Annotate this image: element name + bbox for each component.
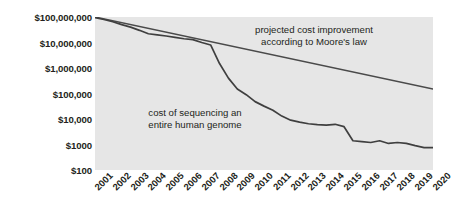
y-tick-label: $100,000,000: [0, 12, 92, 23]
x-tick-label: 2007: [199, 170, 222, 193]
x-tick-label: 2002: [110, 170, 133, 193]
y-tick-label: $1000: [0, 139, 92, 150]
x-axis: 2001200220032004200520062007200820092010…: [95, 170, 449, 203]
x-tick-label: 2020: [430, 170, 453, 193]
annotation-genome-cost: cost of sequencing an entire human genom…: [130, 107, 260, 132]
x-tick-label: 2019: [412, 170, 435, 193]
x-tick-label: 2005: [163, 170, 186, 193]
x-tick-label: 2006: [181, 170, 204, 193]
y-tick-label: $10,000,000: [0, 37, 92, 48]
y-axis: $100,000,000$10,000,000$1,000,000$100,00…: [0, 0, 92, 203]
y-tick-label: $100,000: [0, 88, 92, 99]
y-tick-label: $10,000: [0, 114, 92, 125]
x-tick-label: 2015: [341, 170, 364, 193]
x-tick-label: 2004: [146, 170, 169, 193]
x-tick-label: 2014: [324, 170, 347, 193]
x-tick-label: 2009: [235, 170, 258, 193]
x-tick-label: 2010: [252, 170, 275, 193]
x-tick-label: 2011: [271, 170, 293, 192]
x-tick-label: 2016: [359, 170, 382, 193]
annotation-moores-law: projected cost improvement according to …: [224, 24, 404, 49]
y-tick-label: $1,000,000: [0, 63, 92, 74]
x-tick-label: 2001: [92, 170, 115, 193]
y-tick-label: $100: [0, 165, 92, 176]
